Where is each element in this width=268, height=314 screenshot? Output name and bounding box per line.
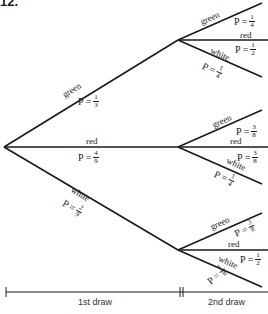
fraction: 13 [93,94,99,109]
fraction: 12 [250,42,256,57]
prob-green-green: P = 14 [234,14,255,29]
label-green-red: red [240,31,252,40]
axis-label-second-draw: 2nd draw [208,297,245,307]
prob-first-red: P = 49 [78,150,99,165]
fraction: 38 [251,124,257,139]
label-white-red: red [228,240,240,249]
fraction: 14 [249,14,255,29]
label-first-red: red [86,137,98,146]
fraction: 12 [255,252,261,267]
draw-axis [6,287,268,297]
fraction: 38 [252,150,258,165]
label-red-red: red [230,137,242,146]
prob-first-green: P = 13 [78,94,99,109]
fraction: 49 [93,150,99,165]
axis-label-first-draw: 1st draw [78,297,112,307]
prob-green-red: P = 12 [235,42,256,57]
prob-white-red: P = 12 [240,252,261,267]
